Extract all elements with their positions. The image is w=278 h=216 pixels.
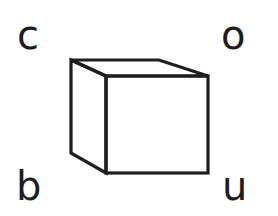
letter-u: u — [222, 163, 247, 209]
cube-front-face — [106, 76, 208, 173]
cube-icon — [71, 60, 208, 173]
letter-c: c — [17, 12, 39, 58]
letter-b: b — [16, 163, 41, 209]
cube-left-face — [71, 60, 106, 173]
cobu-logo: c o b u — [0, 0, 278, 216]
letter-o: o — [221, 12, 245, 58]
logo-graphic: c o b u — [0, 0, 278, 216]
